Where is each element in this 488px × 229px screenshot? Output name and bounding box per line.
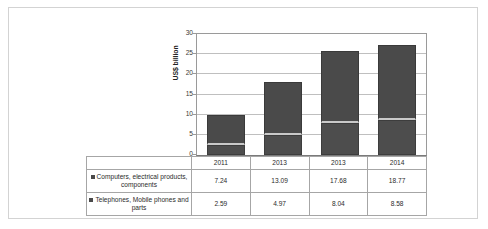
value-cell: 4.97 bbox=[250, 193, 309, 216]
table-corner-cell bbox=[87, 157, 192, 170]
legend-label-1: Telephones, Mobile phones and parts bbox=[95, 196, 188, 212]
y-tick-label: 10 bbox=[169, 110, 193, 118]
y-tick-mark bbox=[192, 53, 196, 54]
plot-area bbox=[196, 33, 427, 156]
legend-label-0: Computers, electrical products, componen… bbox=[97, 173, 188, 189]
legend-item-1[interactable]: Telephones, Mobile phones and parts bbox=[87, 193, 192, 216]
legend-swatch-icon bbox=[91, 175, 95, 179]
value-cell: 7.24 bbox=[192, 170, 251, 193]
y-tick-mark bbox=[192, 94, 196, 95]
legend-item-0[interactable]: Computers, electrical products, componen… bbox=[87, 170, 192, 193]
table-row-series-0: Computers, electrical products, componen… bbox=[87, 170, 427, 193]
value-cell: 17.68 bbox=[309, 170, 368, 193]
y-tick-label: 5 bbox=[169, 130, 193, 138]
bar-column[interactable] bbox=[207, 34, 245, 155]
category-cell: 2014 bbox=[368, 157, 427, 170]
category-cell: 2013 bbox=[309, 157, 368, 170]
value-cell: 2.59 bbox=[192, 193, 251, 216]
value-cell: 18.77 bbox=[368, 170, 427, 193]
value-cell: 8.04 bbox=[309, 193, 368, 216]
bar-segment-telephones[interactable] bbox=[264, 135, 302, 155]
bar-column[interactable] bbox=[264, 34, 302, 155]
bar-segment-computers[interactable] bbox=[207, 115, 245, 144]
bar-segment-telephones[interactable] bbox=[207, 145, 245, 155]
y-tick-label: 15 bbox=[169, 90, 193, 98]
bar-segment-computers[interactable] bbox=[264, 82, 302, 135]
value-cell: 8.58 bbox=[368, 193, 427, 216]
category-cell: 2011 bbox=[192, 157, 251, 170]
y-tick-label: 25 bbox=[169, 49, 193, 57]
table-row-series-1: Telephones, Mobile phones and parts 2.59… bbox=[87, 193, 427, 216]
y-axis: 051015202530 bbox=[169, 27, 193, 162]
bar-segment-computers[interactable] bbox=[378, 45, 416, 121]
data-table: 2011201320132014 Computers, electrical p… bbox=[86, 156, 427, 216]
table-row-categories: 2011201320132014 bbox=[87, 157, 427, 170]
bar-column[interactable] bbox=[378, 34, 416, 155]
bar-segment-computers[interactable] bbox=[321, 51, 359, 122]
y-tick-mark bbox=[192, 114, 196, 115]
y-tick-mark bbox=[192, 154, 196, 155]
y-tick-label: 30 bbox=[169, 29, 193, 37]
value-cell: 13.09 bbox=[250, 170, 309, 193]
bar-column[interactable] bbox=[321, 34, 359, 155]
legend-swatch-icon bbox=[89, 198, 93, 202]
y-tick-label: 20 bbox=[169, 69, 193, 77]
category-cell: 2013 bbox=[250, 157, 309, 170]
y-tick-mark bbox=[192, 134, 196, 135]
chart-frame: US$ billion 051015202530 201120132013201… bbox=[8, 7, 478, 219]
y-tick-mark bbox=[192, 73, 196, 74]
bar-segment-telephones[interactable] bbox=[378, 120, 416, 155]
y-tick-mark bbox=[192, 33, 196, 34]
bar-segment-telephones[interactable] bbox=[321, 123, 359, 155]
